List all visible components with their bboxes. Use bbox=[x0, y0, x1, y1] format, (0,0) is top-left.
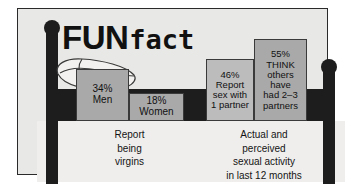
bar-think-line5: had 2–3 bbox=[263, 90, 297, 100]
funfact-infographic: FUN fact 34% Men 18% Women 46% Report se… bbox=[0, 0, 346, 184]
bar-one-partner: 46% Report sex with 1 partner bbox=[206, 59, 254, 121]
caption-left-line2: being bbox=[72, 142, 187, 156]
title-fact: fact bbox=[129, 24, 194, 55]
bar-think-percent: 55% bbox=[271, 49, 290, 59]
page-title: FUN fact bbox=[62, 19, 194, 55]
bar-think-others: 55% THINK others have had 2–3 partners bbox=[254, 39, 307, 121]
graphic-frame: FUN fact 34% Men 18% Women 46% Report se… bbox=[17, 8, 328, 175]
caption-right-line3: sexual activity bbox=[194, 155, 334, 169]
bar-women: 18% Women bbox=[129, 93, 184, 121]
bed-head-knob bbox=[44, 20, 60, 36]
caption-right-line1: Actual and bbox=[194, 128, 334, 142]
caption-left: Report being virgins bbox=[72, 128, 187, 169]
caption-right-line4: in last 12 months bbox=[194, 169, 334, 183]
bar-men: 34% Men bbox=[76, 69, 129, 121]
caption-left-line3: virgins bbox=[72, 155, 187, 169]
bar-think-line6: partners bbox=[263, 101, 298, 111]
title-fun: FUN bbox=[62, 19, 128, 57]
bed-foot-knob bbox=[321, 59, 337, 75]
caption-right: Actual and perceived sexual activity in … bbox=[194, 128, 334, 182]
bar-women-label: Women bbox=[139, 107, 173, 118]
bed-head-post bbox=[46, 29, 58, 184]
bar-one-partner-line4: 1 partner bbox=[211, 100, 249, 110]
bar-men-label: Men bbox=[93, 95, 112, 106]
caption-right-line2: perceived bbox=[194, 142, 334, 156]
caption-left-line1: Report bbox=[72, 128, 187, 142]
